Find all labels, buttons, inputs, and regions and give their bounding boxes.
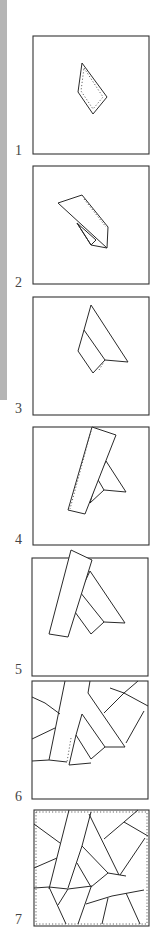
panel-6 — [32, 681, 148, 799]
panel-4 — [33, 427, 149, 545]
panel-5 — [32, 550, 148, 676]
panel-3 — [33, 297, 149, 415]
panel-7 — [34, 810, 149, 926]
panel-2 — [33, 166, 149, 284]
panel-1 — [33, 36, 149, 154]
quilt-steps-diagram — [0, 0, 159, 941]
